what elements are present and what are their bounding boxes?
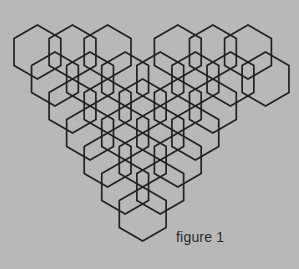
honeycomb-diagram [0, 0, 299, 269]
figure-canvas: figure 1 [0, 0, 299, 269]
figure-caption: figure 1 [176, 230, 224, 244]
